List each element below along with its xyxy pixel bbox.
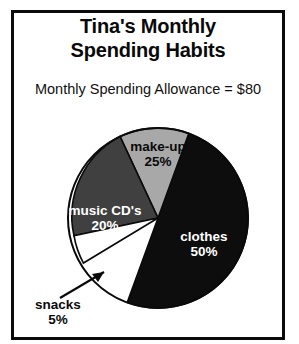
worksheet-page: Tina's Monthly Spending Habits Monthly S… bbox=[0, 0, 299, 344]
pie-chart bbox=[0, 0, 299, 344]
pie-label-music-cds: music CD's 20% bbox=[56, 203, 154, 233]
pie-label-makeup: make-up 25% bbox=[108, 139, 208, 169]
pie-chart-svg bbox=[0, 0, 299, 344]
pie-label-music-cds-name: music CD's bbox=[56, 203, 154, 218]
pie-label-music-cds-value: 20% bbox=[56, 218, 154, 233]
pie-label-clothes-value: 50% bbox=[163, 244, 245, 259]
pie-label-clothes-name: clothes bbox=[163, 229, 245, 244]
pie-label-makeup-name: make-up bbox=[108, 139, 208, 154]
pie-label-clothes: clothes 50% bbox=[163, 229, 245, 259]
pie-label-snacks-value: 5% bbox=[14, 312, 102, 327]
pie-label-makeup-value: 25% bbox=[108, 154, 208, 169]
pie-label-snacks: snacks 5% bbox=[14, 297, 102, 327]
pie-label-snacks-name: snacks bbox=[14, 297, 102, 312]
